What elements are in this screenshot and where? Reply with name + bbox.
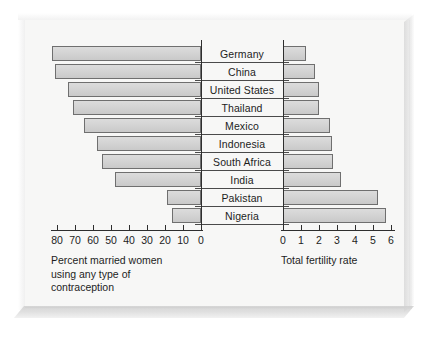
axis-tick-label: 5 <box>363 234 383 246</box>
country-label: Nigeria <box>195 207 289 225</box>
left-zero-axis-line <box>201 40 202 225</box>
axis-tick-label: 1 <box>291 234 311 246</box>
axis-tick <box>319 225 320 230</box>
axis-tick-label: 3 <box>327 234 347 246</box>
bar-contraception <box>73 100 201 115</box>
axis-tick <box>283 225 284 230</box>
axis-tick-label: 40 <box>119 234 139 246</box>
bar-contraception <box>102 154 201 169</box>
bar-contraception <box>115 172 201 187</box>
bar-fertility <box>283 118 330 133</box>
axis-tick <box>301 225 302 230</box>
axis-tick-label: 80 <box>47 234 67 246</box>
axis-tick <box>165 225 166 230</box>
axis-tick <box>93 225 94 230</box>
country-label: Pakistan <box>195 189 289 207</box>
axis-tick <box>111 225 112 230</box>
axis-tick-label: 4 <box>345 234 365 246</box>
axis-tick-label: 10 <box>173 234 193 246</box>
paired-bar-chart: GermanyChinaUnited StatesThailandMexicoI… <box>24 19 410 308</box>
axis-tick-label: 0 <box>191 234 211 246</box>
chart-row: Nigeria <box>24 207 410 225</box>
chart-row: Mexico <box>24 117 410 135</box>
bar-fertility <box>283 136 332 151</box>
chart-row: Germany <box>24 45 410 63</box>
chart-row: China <box>24 63 410 81</box>
bar-fertility <box>283 208 386 223</box>
bar-fertility <box>283 190 378 205</box>
axis-tick <box>183 225 184 230</box>
axis-tick-label: 2 <box>309 234 329 246</box>
bar-contraception <box>97 136 201 151</box>
axis-tick <box>337 225 338 230</box>
axis-tick-label: 60 <box>83 234 103 246</box>
axis-tick-label: 50 <box>101 234 121 246</box>
axis-tick <box>355 225 356 230</box>
axis-tick <box>129 225 130 230</box>
bar-contraception <box>84 118 201 133</box>
left-axis-caption: Percent married women using any type of … <box>51 254 241 295</box>
country-label: Germany <box>195 45 289 63</box>
country-label: Mexico <box>195 117 289 135</box>
axis-tick-label: 70 <box>65 234 85 246</box>
chart-row: India <box>24 171 410 189</box>
chart-row: Pakistan <box>24 189 410 207</box>
right-axis-line <box>281 230 395 231</box>
right-zero-axis-line <box>283 40 284 225</box>
left-axis-line <box>51 230 203 231</box>
axis-tick <box>391 225 392 230</box>
axis-tick-label: 20 <box>155 234 175 246</box>
axis-tick <box>57 225 58 230</box>
country-label: Thailand <box>195 99 289 117</box>
axis-tick <box>75 225 76 230</box>
axis-tick-label: 30 <box>137 234 157 246</box>
country-label: China <box>195 63 289 81</box>
country-label: Indonesia <box>195 135 289 153</box>
bar-contraception <box>52 46 201 61</box>
bar-fertility <box>283 172 341 187</box>
axis-tick <box>373 225 374 230</box>
bar-contraception <box>68 82 201 97</box>
country-label: India <box>195 171 289 189</box>
bar-fertility <box>283 154 333 169</box>
axis-tick <box>201 225 202 230</box>
axis-tick-label: 6 <box>381 234 401 246</box>
country-label: South Africa <box>195 153 289 171</box>
right-axis-caption: Total fertility rate <box>281 254 431 268</box>
chart-row: Indonesia <box>24 135 410 153</box>
chart-row: United States <box>24 81 410 99</box>
axis-tick <box>147 225 148 230</box>
chart-row: South Africa <box>24 153 410 171</box>
bar-contraception <box>55 64 201 79</box>
axis-tick-label: 0 <box>273 234 293 246</box>
chart-row: Thailand <box>24 99 410 117</box>
country-label: United States <box>195 81 289 99</box>
